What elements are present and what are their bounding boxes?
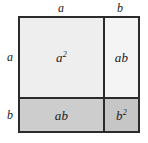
- outer-square: a2 ab ab b2: [18, 16, 140, 133]
- region-ab-top-right-label: ab: [115, 51, 128, 64]
- region-b-squared-label: b2: [116, 109, 127, 122]
- region-ab-bottom-left: ab: [20, 97, 103, 131]
- region-b-squared: b2: [103, 97, 138, 131]
- region-a-squared: a2: [20, 18, 103, 97]
- binomial-square-figure: a b a b a2 ab ab b2: [0, 0, 148, 143]
- edge-label-top-a: a: [52, 2, 70, 14]
- edge-label-left-b: b: [4, 109, 16, 121]
- region-ab-bottom-left-label: ab: [55, 109, 68, 122]
- region-a-squared-label: a2: [56, 51, 67, 64]
- edge-label-top-b: b: [113, 2, 127, 14]
- edge-label-left-a: a: [4, 51, 16, 63]
- region-ab-top-right: ab: [103, 18, 138, 97]
